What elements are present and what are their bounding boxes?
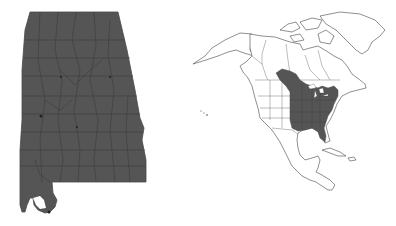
hawaii-islands (200, 110, 207, 115)
city-dot (76, 126, 78, 128)
north-america-distribution-map: North America distribution map (190, 0, 396, 226)
alaska-shape (193, 33, 254, 64)
arctic-island (300, 18, 322, 30)
cuba-shape (322, 148, 346, 156)
arctic-island (280, 22, 300, 32)
hispaniola-shape (348, 157, 356, 161)
city-dot (60, 76, 62, 78)
alabama-county-map: Alabama county map (0, 0, 190, 226)
city-dot (48, 211, 51, 214)
alabama-map-svg (0, 0, 190, 226)
arctic-island (318, 30, 334, 44)
city-dot (40, 115, 43, 118)
arctic-island (290, 34, 304, 42)
city-dot (109, 76, 111, 78)
north-america-map-svg (190, 0, 396, 226)
